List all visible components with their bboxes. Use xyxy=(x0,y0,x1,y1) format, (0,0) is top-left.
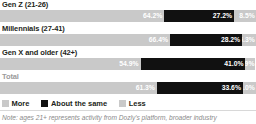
bar-value-more: 64.2% xyxy=(143,10,162,22)
bar-segment-more[interactable]: 66.4% xyxy=(0,34,170,46)
stacked-bar-chart: Gen Z (21-26) 64.2% 27.2% 8.5% Millennia… xyxy=(0,0,256,124)
bar-value-more: 61.3% xyxy=(136,82,155,94)
legend-label-more: More xyxy=(12,99,30,108)
bar-value-same: 41.0% xyxy=(224,58,243,70)
bar-value-same: 27.2% xyxy=(213,10,232,22)
group-label-total: Total xyxy=(0,72,256,82)
bar-segment-more[interactable]: 64.2% xyxy=(0,10,164,22)
group-label-gen-z: Gen Z (21-26) xyxy=(0,0,256,10)
chart-footnote: Note: ages 21+ represents activity from … xyxy=(0,111,256,122)
bar-segment-less[interactable]: 5.3% xyxy=(242,34,256,46)
chart-group-row: Gen Z (21-26) 64.2% 27.2% 8.5% xyxy=(0,0,256,22)
bar-segment-same[interactable]: 28.2% xyxy=(170,34,242,46)
chart-legend: More About the same Less xyxy=(0,97,256,109)
group-label-gen-x-and-older: Gen X and older (42+) xyxy=(0,48,256,58)
chart-group-row: Total 61.3% 33.6% 5.0% xyxy=(0,72,256,94)
bar-value-less: 5.0% xyxy=(243,82,255,94)
bar-segment-more[interactable]: 54.9% xyxy=(0,58,141,70)
chart-group-row: Millennials (27-41) 66.4% 28.2% 5.3% xyxy=(0,24,256,46)
bar-value-less: 5.3% xyxy=(242,34,255,46)
bar-value-same: 33.6% xyxy=(222,82,241,94)
legend-swatch-less-icon xyxy=(119,100,126,107)
chart-group-row: Gen X and older (42+) 54.9% 41.0% 3.9% xyxy=(0,48,256,70)
bar-segment-less[interactable]: 5.0% xyxy=(243,82,256,94)
bar-segment-same[interactable]: 41.0% xyxy=(141,58,246,70)
bar-value-more: 66.4% xyxy=(149,34,168,46)
bar-segment-more[interactable]: 61.3% xyxy=(0,82,157,94)
group-label-millennials: Millennials (27-41) xyxy=(0,24,256,34)
bar-value-same: 28.2% xyxy=(221,34,240,46)
legend-swatch-same-icon xyxy=(41,100,48,107)
legend-label-less: Less xyxy=(129,99,146,108)
legend-item-about-the-same[interactable]: About the same xyxy=(41,99,107,108)
bar-gen-z: 64.2% 27.2% 8.5% xyxy=(0,10,256,22)
legend-swatch-more-icon xyxy=(2,100,9,107)
legend-label-about-the-same: About the same xyxy=(51,99,107,108)
bar-millennials: 66.4% 28.2% 5.3% xyxy=(0,34,256,46)
legend-item-less[interactable]: Less xyxy=(119,99,146,108)
bar-value-less: 8.5% xyxy=(239,10,255,22)
bar-segment-less[interactable]: 8.5% xyxy=(234,10,256,22)
bar-value-less: 3.9% xyxy=(245,58,254,70)
bar-segment-same[interactable]: 33.6% xyxy=(157,82,243,94)
legend-item-more[interactable]: More xyxy=(2,99,29,108)
bar-segment-less[interactable]: 3.9% xyxy=(245,58,255,70)
bar-segment-same[interactable]: 27.2% xyxy=(164,10,234,22)
bar-gen-x-and-older: 54.9% 41.0% 3.9% xyxy=(0,58,256,70)
bar-value-more: 54.9% xyxy=(119,58,138,70)
bar-total: 61.3% 33.6% 5.0% xyxy=(0,82,256,94)
